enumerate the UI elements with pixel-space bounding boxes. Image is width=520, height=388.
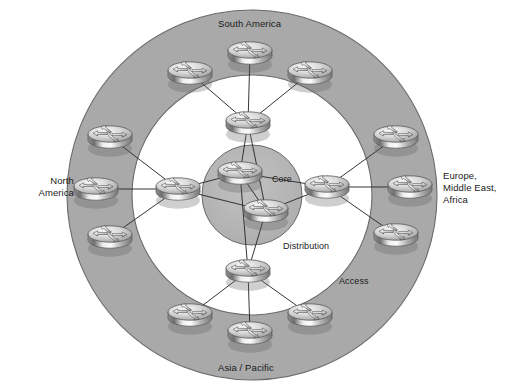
router-icon <box>88 126 132 157</box>
region-label-asia-pacific: Asia / Pacific <box>218 362 274 374</box>
router-node-acc-ap-1[interactable] <box>168 304 212 335</box>
tier-label-core: Core <box>272 174 292 185</box>
router-node-dist-west[interactable] <box>156 178 200 209</box>
router-icon <box>228 42 272 73</box>
router-node-acc-sa-1[interactable] <box>168 62 212 93</box>
router-icon <box>288 62 332 93</box>
router-node-dist-south[interactable] <box>226 260 270 291</box>
router-icon <box>218 162 262 193</box>
router-icon <box>226 260 270 291</box>
router-icon <box>305 176 349 207</box>
router-icon <box>88 226 132 257</box>
router-node-acc-sa-3[interactable] <box>288 62 332 93</box>
router-node-dist-north[interactable] <box>226 112 270 143</box>
tier-label-distribution: Distribution <box>283 241 329 252</box>
router-icon <box>168 62 212 93</box>
router-icon <box>228 322 272 353</box>
region-label-emea: Europe, Middle East, Africa <box>443 170 496 206</box>
router-node-acc-na-3[interactable] <box>88 226 132 257</box>
topology-canvas <box>0 0 520 388</box>
router-node-acc-na-2[interactable] <box>74 178 118 209</box>
router-node-acc-em-3[interactable] <box>374 224 418 255</box>
network-topology-diagram: South America North America Europe, Midd… <box>0 0 520 388</box>
router-node-acc-na-1[interactable] <box>88 126 132 157</box>
router-icon <box>156 178 200 209</box>
region-label-north-america: North America <box>18 175 74 199</box>
core-zone-circle <box>202 145 302 245</box>
router-node-acc-em-2[interactable] <box>388 176 432 207</box>
router-icon <box>244 200 288 231</box>
router-icon <box>168 304 212 335</box>
router-node-acc-em-1[interactable] <box>374 126 418 157</box>
router-icon <box>74 178 118 209</box>
router-node-core-2[interactable] <box>244 200 288 231</box>
router-node-acc-ap-3[interactable] <box>288 304 332 335</box>
router-icon <box>288 304 332 335</box>
router-node-dist-east[interactable] <box>305 176 349 207</box>
router-icon <box>226 112 270 143</box>
tier-label-access: Access <box>339 276 369 287</box>
router-icon <box>374 126 418 157</box>
region-label-south-america: South America <box>218 18 281 30</box>
router-icon <box>388 176 432 207</box>
router-node-core-1[interactable] <box>218 162 262 193</box>
router-icon <box>374 224 418 255</box>
router-node-acc-sa-2[interactable] <box>228 42 272 73</box>
router-node-acc-ap-2[interactable] <box>228 322 272 353</box>
